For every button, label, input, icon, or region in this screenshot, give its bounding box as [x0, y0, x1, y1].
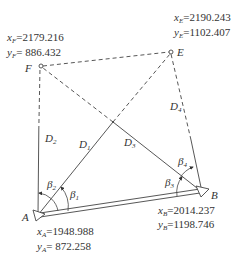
line-f-e: [43, 52, 169, 66]
coord-f-x: xF=2179.216: [6, 31, 64, 45]
coord-a-x: xA=1948.988: [36, 225, 94, 239]
coord-e-y: yE=1102.407: [173, 26, 231, 40]
label-d4: D4: [169, 100, 182, 114]
label-d1: D1: [78, 138, 90, 152]
survey-diagram: F E A B xF=2179.216 yF= 886.432 xE=2190.…: [0, 0, 243, 264]
label-beta4: β4: [177, 155, 187, 169]
line-b-f-solid: [113, 122, 202, 192]
label-b: B: [211, 189, 218, 201]
line-b-f-dashed: [43, 68, 113, 122]
label-beta1: β1: [69, 188, 79, 202]
coord-f-y: yF= 886.432: [6, 46, 61, 60]
line-a-f-dashed: [39, 68, 40, 130]
line-a-f-solid: [38, 130, 39, 215]
coord-e-x: xE=2190.243: [173, 11, 231, 25]
coord-b-y: yB=1198.746: [157, 218, 215, 232]
station-e-marker: [169, 50, 173, 54]
station-a-marker: [33, 210, 45, 221]
label-beta2: β2: [46, 178, 56, 192]
line-a-e-dashed: [113, 54, 170, 122]
coord-b-x: xB=2014.237: [157, 204, 215, 218]
intersection-point: [112, 121, 114, 123]
label-f: F: [24, 62, 32, 74]
line-b-e-dashed: [171, 54, 191, 140]
station-b-marker: [196, 186, 209, 197]
coord-a-y: yA= 872.258: [36, 240, 91, 254]
label-e: E: [176, 46, 184, 58]
station-f-marker: [39, 64, 43, 68]
angle-beta1-arc: [61, 187, 68, 211]
label-a: A: [21, 211, 29, 223]
angle-beta3-arc: [177, 177, 182, 196]
label-d2: D2: [44, 132, 57, 146]
label-beta3: β3: [164, 176, 174, 190]
